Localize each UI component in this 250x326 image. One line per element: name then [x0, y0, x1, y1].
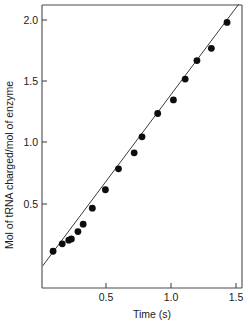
data-point-group	[50, 19, 231, 255]
x-axis-ticks	[106, 283, 236, 288]
x-tick-label-0-5: 0.5	[99, 291, 114, 303]
data-point	[89, 205, 96, 212]
x-axis-label: Time (s)	[133, 308, 171, 320]
data-point	[194, 57, 201, 64]
x-axis-tick-labels: 0.5 1.0 1.5	[99, 291, 244, 303]
data-point	[75, 228, 82, 235]
y-tick-label-0-5: 0.5	[23, 198, 38, 210]
data-point	[131, 149, 138, 156]
kinetics-scatter-chart: 2.0 1.5 1.0 0.5 0.5 1.0 1.5 Time (s) Mol…	[0, 0, 250, 326]
data-point	[115, 165, 122, 172]
data-point	[59, 240, 66, 247]
x-tick-label-1-5: 1.5	[229, 291, 244, 303]
data-point	[208, 45, 215, 52]
y-axis-label: Mol of tRNA charged/mol of enzyme	[3, 81, 15, 249]
data-point	[224, 19, 231, 26]
data-point	[154, 110, 161, 117]
data-point	[80, 221, 87, 228]
data-point	[102, 186, 109, 193]
data-point	[68, 236, 75, 243]
y-tick-label-1-0: 1.0	[23, 136, 38, 148]
y-axis-ticks	[42, 20, 47, 204]
data-point	[170, 97, 177, 104]
y-tick-label-2-0: 2.0	[23, 14, 38, 26]
y-axis-tick-labels: 2.0 1.5 1.0 0.5	[23, 14, 38, 210]
y-tick-label-1-5: 1.5	[23, 75, 38, 87]
data-point	[139, 133, 146, 140]
x-tick-label-1-0: 1.0	[164, 291, 179, 303]
data-point	[182, 76, 189, 83]
data-point	[50, 248, 57, 255]
